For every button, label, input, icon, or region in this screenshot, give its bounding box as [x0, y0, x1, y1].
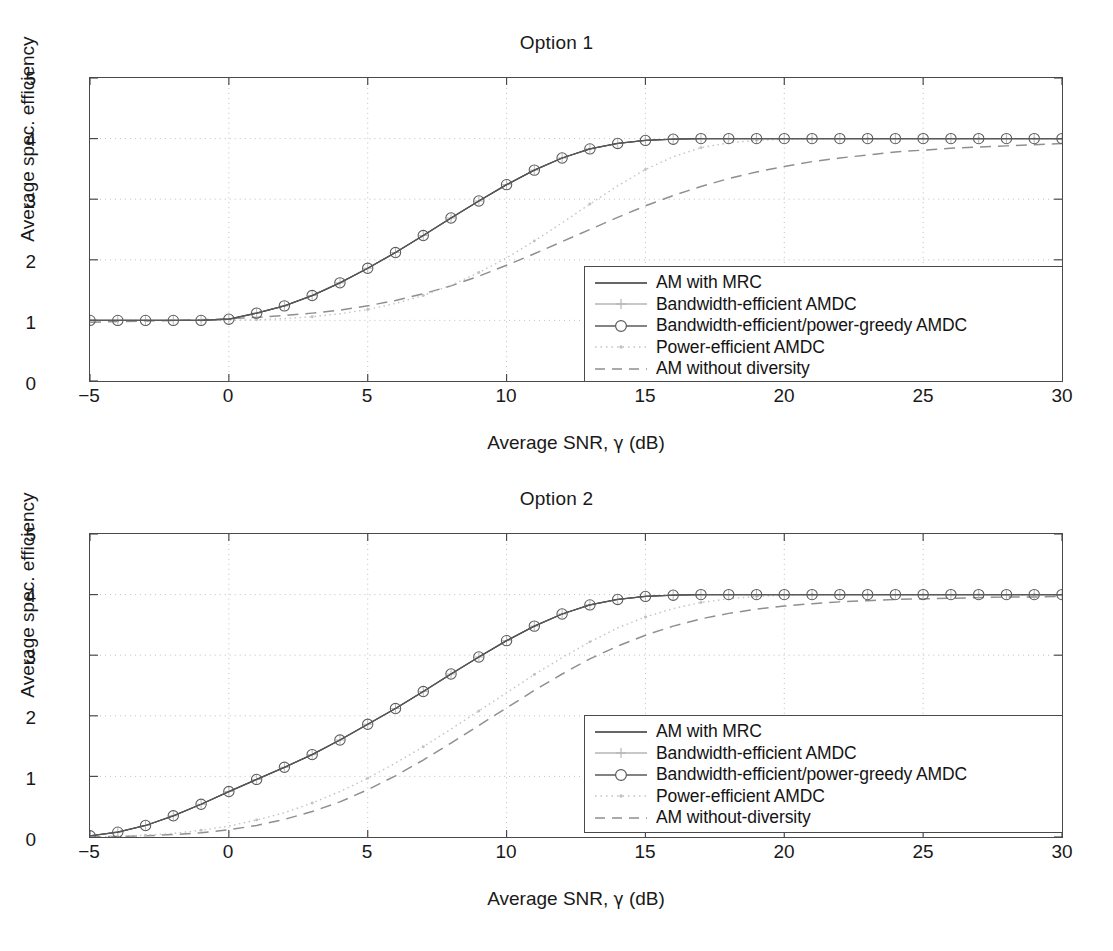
- legend-item-label: Bandwidth-efficient/power-greedy AMDC: [656, 317, 967, 335]
- x-tick-25-option-1: 25: [893, 386, 953, 405]
- legend-item-label: Bandwidth-efficient AMDC: [656, 745, 857, 763]
- chart-panel-option-2: Option 2 Average spec. efficiency 5 4 3 …: [0, 466, 1113, 936]
- legend-item-label: Power-efficient AMDC: [656, 788, 825, 806]
- y-tick-0-option-1: 0: [0, 374, 36, 393]
- x-tick-15-option-1: 15: [615, 386, 675, 405]
- x-tick-m5-option-2: −5: [59, 842, 119, 861]
- legend-line-sample-icon: [593, 744, 649, 762]
- chart-title-option-1: Option 1: [0, 32, 1113, 54]
- legend-line-sample-icon: [593, 723, 649, 741]
- y-tick-2-option-1: 2: [0, 252, 36, 271]
- y-tick-2-option-2: 2: [0, 708, 36, 727]
- x-axis-label-suffix: (dB): [624, 432, 665, 453]
- figure-root: Option 1 Average spec. efficiency 5 4 3 …: [0, 0, 1113, 951]
- legend-item-1[interactable]: AM with MRC: [593, 721, 1053, 743]
- legend-line-sample-icon: [593, 295, 649, 313]
- legend-option-1: AM with MRCBandwidth-efficient AMDCBandw…: [584, 266, 1063, 382]
- x-tick-5-option-2: 5: [337, 842, 397, 861]
- gamma-symbol: γ: [614, 889, 624, 909]
- legend-line-sample-icon: [593, 338, 649, 356]
- x-tick-30-option-2: 30: [1032, 842, 1092, 861]
- x-tick-10-option-2: 10: [476, 842, 536, 861]
- legend-item-3[interactable]: Bandwidth-efficient/power-greedy AMDC: [593, 764, 1053, 786]
- gamma-symbol: γ: [614, 433, 624, 453]
- y-tick-3-option-1: 3: [0, 191, 36, 210]
- legend-line-sample-icon: [593, 809, 649, 827]
- y-tick-5-option-1: 5: [0, 69, 36, 88]
- x-tick-25-option-2: 25: [893, 842, 953, 861]
- legend-item-label: AM with MRC: [656, 274, 762, 292]
- x-axis-label-suffix: (dB): [624, 888, 665, 909]
- chart-panel-option-1: Option 1 Average spec. efficiency 5 4 3 …: [0, 10, 1113, 480]
- legend-item-label: AM without-diversity: [656, 809, 811, 827]
- x-axis-label-option-2: Average SNR, γ (dB): [89, 888, 1063, 910]
- y-tick-4-option-2: 4: [0, 586, 36, 605]
- y-tick-4-option-1: 4: [0, 130, 36, 149]
- x-tick-m5-option-1: −5: [59, 386, 119, 405]
- legend-item-4[interactable]: Power-efficient AMDC: [593, 337, 1053, 359]
- legend-item-3[interactable]: Bandwidth-efficient/power-greedy AMDC: [593, 315, 1053, 337]
- y-tick-0-option-2: 0: [0, 830, 36, 849]
- legend-item-label: Power-efficient AMDC: [656, 339, 825, 357]
- legend-item-4[interactable]: Power-efficient AMDC: [593, 786, 1053, 808]
- legend-item-label: AM with MRC: [656, 723, 762, 741]
- x-tick-20-option-2: 20: [754, 842, 814, 861]
- x-tick-0-option-2: 0: [198, 842, 258, 861]
- legend-item-1[interactable]: AM with MRC: [593, 272, 1053, 294]
- legend-line-sample-icon: [593, 317, 649, 335]
- legend-item-2[interactable]: Bandwidth-efficient AMDC: [593, 743, 1053, 765]
- legend-line-sample-icon: [593, 274, 649, 292]
- legend-item-2[interactable]: Bandwidth-efficient AMDC: [593, 294, 1053, 316]
- legend-item-label: Bandwidth-efficient/power-greedy AMDC: [656, 766, 967, 784]
- x-tick-15-option-2: 15: [615, 842, 675, 861]
- x-tick-5-option-1: 5: [337, 386, 397, 405]
- legend-line-sample-icon: [593, 360, 649, 378]
- x-axis-label-prefix: Average SNR,: [487, 432, 613, 453]
- x-axis-label-option-1: Average SNR, γ (dB): [89, 432, 1063, 454]
- legend-item-label: AM without diversity: [656, 360, 810, 378]
- x-axis-label-prefix: Average SNR,: [487, 888, 613, 909]
- legend-item-5[interactable]: AM without-diversity: [593, 807, 1053, 829]
- legend-line-sample-icon: [593, 787, 649, 805]
- y-tick-1-option-1: 1: [0, 313, 36, 332]
- legend-item-label: Bandwidth-efficient AMDC: [656, 296, 857, 314]
- x-tick-0-option-1: 0: [198, 386, 258, 405]
- x-tick-20-option-1: 20: [754, 386, 814, 405]
- legend-line-sample-icon: [593, 766, 649, 784]
- chart-title-option-2: Option 2: [0, 488, 1113, 510]
- y-tick-3-option-2: 3: [0, 647, 36, 666]
- y-tick-5-option-2: 5: [0, 525, 36, 544]
- x-tick-30-option-1: 30: [1032, 386, 1092, 405]
- x-tick-10-option-1: 10: [476, 386, 536, 405]
- y-tick-1-option-2: 1: [0, 769, 36, 788]
- legend-item-5[interactable]: AM without diversity: [593, 358, 1053, 380]
- legend-option-2: AM with MRCBandwidth-efficient AMDCBandw…: [584, 715, 1063, 833]
